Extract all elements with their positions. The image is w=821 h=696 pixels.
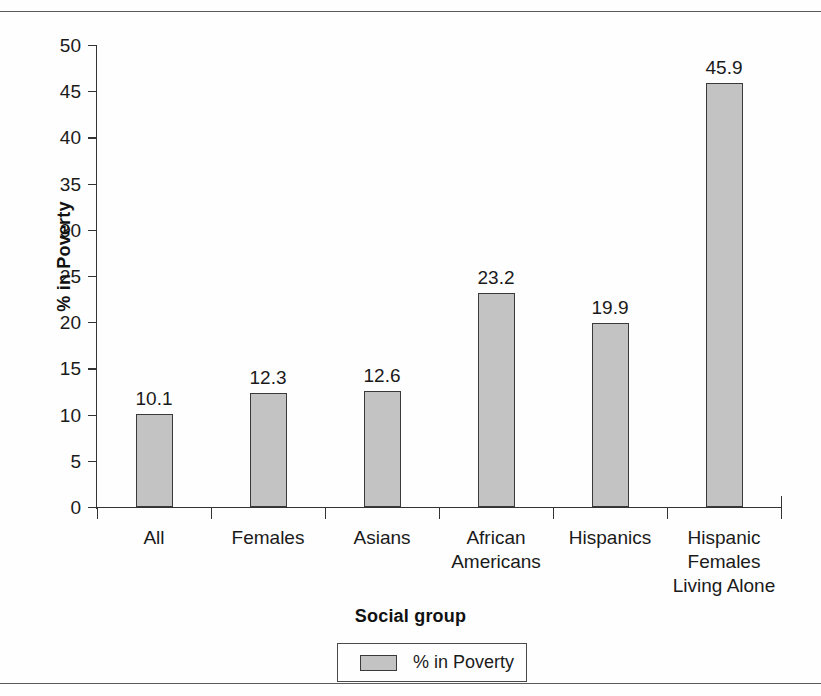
x-axis-tick: [211, 508, 212, 519]
x-axis-tick: [781, 508, 782, 519]
bar-chart: 05101520253035404550 10.112.312.623.219.…: [0, 14, 821, 682]
x-axis-tick: [553, 508, 554, 519]
y-axis-tick: [88, 45, 97, 46]
x-axis-tick: [325, 508, 326, 519]
y-axis-tick: [88, 276, 97, 277]
y-axis-tick-label: 45: [21, 82, 81, 101]
y-axis-tick-label: 0: [21, 498, 81, 517]
y-axis-tick-label: 10: [21, 406, 81, 425]
y-axis-tick: [88, 184, 97, 185]
y-axis-tick-label: 5: [21, 452, 81, 471]
y-axis-tick: [88, 368, 97, 369]
bar: [250, 393, 287, 507]
y-axis-tick: [88, 415, 97, 416]
y-axis-tick: [88, 507, 97, 508]
x-axis-tick: [667, 508, 668, 519]
page-rule-top: [0, 11, 821, 12]
bar-value-label: 19.9: [570, 298, 650, 317]
bar: [706, 83, 743, 507]
x-axis-category-label: All: [97, 526, 211, 550]
y-axis-tick: [88, 230, 97, 231]
x-axis-title: Social group: [0, 606, 821, 627]
bar: [592, 323, 629, 507]
x-axis-category-label: Females: [211, 526, 325, 550]
y-axis-tick: [88, 322, 97, 323]
legend-swatch-poverty: [360, 655, 397, 671]
bar-value-label: 12.6: [342, 366, 422, 385]
bar-value-label: 45.9: [684, 58, 764, 77]
y-axis-tick: [88, 461, 97, 462]
y-axis-tick-label: 50: [21, 36, 81, 55]
x-axis-category-label: Hispanics: [553, 526, 667, 550]
x-axis-tick: [439, 508, 440, 519]
y-axis-tick-label: 15: [21, 359, 81, 378]
x-axis-endcap: [781, 496, 782, 508]
x-axis-category-label: Hispanic Females Living Alone: [667, 526, 781, 598]
bar-value-label: 12.3: [228, 368, 308, 387]
y-axis-tick: [88, 137, 97, 138]
x-axis-tick: [97, 508, 98, 519]
bar-value-label: 10.1: [114, 389, 194, 408]
page-rule-bottom: [0, 683, 821, 684]
x-axis-category-label: Asians: [325, 526, 439, 550]
y-axis-tick: [88, 91, 97, 92]
bar: [478, 293, 515, 507]
bar: [136, 414, 173, 507]
x-axis-category-label: African Americans: [439, 526, 553, 574]
y-axis-title: % in Poverty: [54, 157, 75, 357]
chart-legend: % in Poverty: [337, 643, 527, 682]
bar-value-label: 23.2: [456, 268, 536, 287]
chart-page: 05101520253035404550 10.112.312.623.219.…: [0, 0, 821, 696]
y-axis-tick-label: 40: [21, 128, 81, 147]
legend-label-poverty: % in Poverty: [413, 652, 514, 673]
bar: [364, 391, 401, 507]
